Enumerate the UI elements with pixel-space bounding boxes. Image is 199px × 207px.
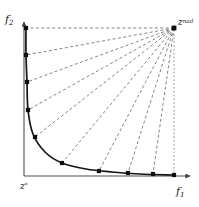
pareto-point-marker: [24, 26, 28, 30]
pareto-point-marker: [33, 135, 37, 139]
reference-ray: [26, 28, 174, 55]
diagram-canvas: [0, 0, 199, 207]
nadir-point-marker: [172, 26, 177, 31]
pareto-point-marker: [172, 173, 176, 177]
pareto-point-marker: [60, 161, 64, 165]
x-axis-label-subscript: 1: [180, 190, 185, 199]
reference-rays-group: [26, 28, 174, 174]
pareto-point-marker: [25, 80, 29, 84]
ideal-point-label: z*: [20, 182, 28, 191]
nadir-point-label-superscript: nad: [183, 18, 194, 24]
nadir-point-label: znad: [178, 18, 193, 27]
ideal-point-label-superscript: *: [25, 182, 28, 188]
pareto-point-marker: [151, 172, 155, 176]
pareto-point-marker: [24, 53, 28, 57]
pareto-front-diagram: f2 f1 znad z*: [0, 0, 199, 207]
reference-ray: [99, 28, 174, 171]
pareto-point-marker: [126, 171, 130, 175]
y-axis-label: f2: [5, 14, 14, 26]
x-axis-label: f1: [176, 186, 185, 198]
pareto-point-marker: [26, 108, 30, 112]
pareto-point-marker: [97, 169, 101, 173]
reference-ray: [35, 28, 174, 137]
pareto-front-curve: [26, 28, 174, 175]
y-axis-label-subscript: 2: [9, 18, 14, 27]
